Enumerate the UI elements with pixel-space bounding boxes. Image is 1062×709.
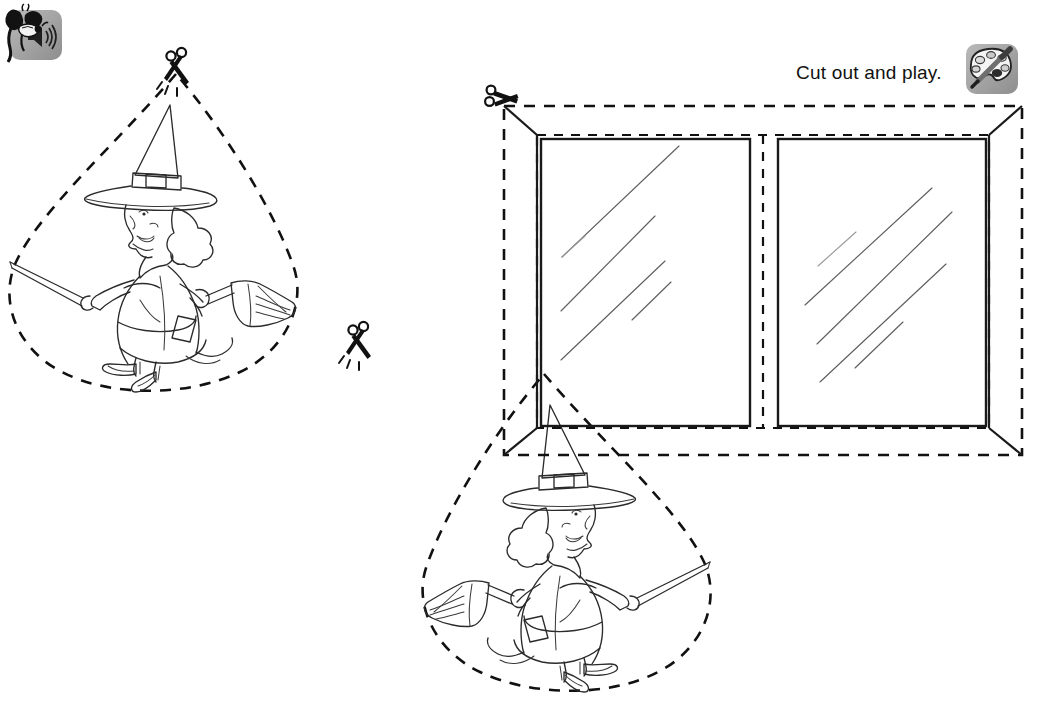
cut-line-witch-left <box>9 74 297 391</box>
cut-line-witch-right <box>423 374 711 691</box>
mitre-top-left <box>504 106 537 135</box>
witch-drawing-left <box>10 105 295 392</box>
panel-left-shine <box>561 146 679 360</box>
panel-right-shine <box>805 188 952 382</box>
cutout-panel-card[interactable] <box>485 86 1022 455</box>
panel-right-frame <box>778 139 986 426</box>
mitre-bottom-left <box>504 428 537 455</box>
mitre-bottom-right <box>989 428 1022 455</box>
scissors-icon-panel-card <box>485 86 518 107</box>
panel-right[interactable] <box>778 139 986 426</box>
cutout-witch-left[interactable] <box>9 48 297 392</box>
cutout-witch-right[interactable] <box>423 374 711 692</box>
worksheet-page: Cut out and play. <box>0 0 1062 709</box>
worksheet-artwork <box>0 0 1062 709</box>
mitre-top-right <box>989 106 1022 135</box>
inner-dashed-border <box>537 135 989 428</box>
scissors-icon-witch-right <box>339 322 371 370</box>
panel-left[interactable] <box>541 139 750 426</box>
witch-drawing-right <box>425 405 710 692</box>
panel-left-frame <box>541 139 750 426</box>
